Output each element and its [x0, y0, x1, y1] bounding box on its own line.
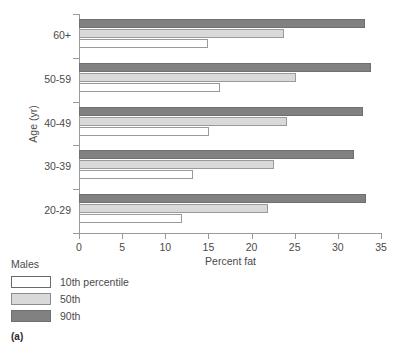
- legend-title: Males: [11, 258, 129, 270]
- bar-50-59-p10: [79, 83, 220, 92]
- y-tick-mark: [73, 189, 79, 190]
- legend-swatch-p10: [11, 276, 51, 288]
- y-tick-label: 20-29: [3, 204, 71, 216]
- bar-20-29-p10: [79, 214, 182, 223]
- bar-50-59-p90: [79, 63, 371, 72]
- x-tick-mark: [252, 234, 253, 239]
- bar-40-49-p10: [79, 127, 209, 136]
- legend-item: 90th: [11, 309, 129, 323]
- x-tick-label: 0: [76, 241, 82, 253]
- y-tick-label: 50-59: [3, 73, 71, 85]
- bar-60+-p90: [79, 19, 365, 28]
- x-axis-line: [79, 233, 382, 234]
- bar-30-39-p50: [79, 160, 274, 169]
- x-tick-label: 15: [203, 241, 215, 253]
- x-tick-mark: [381, 234, 382, 239]
- y-tick-mark: [73, 14, 79, 15]
- y-tick-mark: [73, 145, 79, 146]
- y-tick-label: 60+: [3, 29, 71, 41]
- bar-50-59-p50: [79, 73, 296, 82]
- x-tick-mark: [208, 234, 209, 239]
- bar-60+-p10: [79, 39, 208, 48]
- figure-caption: (a): [11, 331, 23, 342]
- x-tick-label: 35: [375, 241, 387, 253]
- bar-40-49-p50: [79, 117, 287, 126]
- legend-swatch-p50: [11, 293, 51, 305]
- x-tick-mark: [338, 234, 339, 239]
- x-tick-label: 5: [119, 241, 125, 253]
- x-tick-label: 10: [159, 241, 171, 253]
- x-tick-label: 30: [332, 241, 344, 253]
- legend-item: 50th: [11, 292, 129, 306]
- y-tick-label: 40-49: [3, 117, 71, 129]
- x-tick-mark: [122, 234, 123, 239]
- legend-swatch-p90: [11, 310, 51, 322]
- x-tick-label: 20: [246, 241, 258, 253]
- legend-label: 50th: [60, 293, 80, 305]
- legend-label: 10th percentile: [60, 276, 129, 288]
- x-tick-mark: [165, 234, 166, 239]
- legend: Males 10th percentile50th90th: [11, 258, 129, 326]
- legend-items: 10th percentile50th90th: [11, 275, 129, 323]
- y-tick-mark: [73, 58, 79, 59]
- figure: Age (yr) Percent fat 05101520253035 20-2…: [0, 0, 401, 353]
- x-tick-mark: [295, 234, 296, 239]
- x-tick-label: 25: [289, 241, 301, 253]
- bar-30-39-p10: [79, 170, 193, 179]
- y-tick-mark: [73, 102, 79, 103]
- legend-label: 90th: [60, 310, 80, 322]
- bar-20-29-p50: [79, 204, 268, 213]
- bar-20-29-p90: [79, 194, 366, 203]
- y-tick-mark: [73, 233, 79, 234]
- legend-item: 10th percentile: [11, 275, 129, 289]
- bar-40-49-p90: [79, 107, 363, 116]
- bar-30-39-p90: [79, 150, 354, 159]
- x-tick-mark: [79, 234, 80, 239]
- bar-60+-p50: [79, 29, 284, 38]
- y-tick-label: 30-39: [3, 160, 71, 172]
